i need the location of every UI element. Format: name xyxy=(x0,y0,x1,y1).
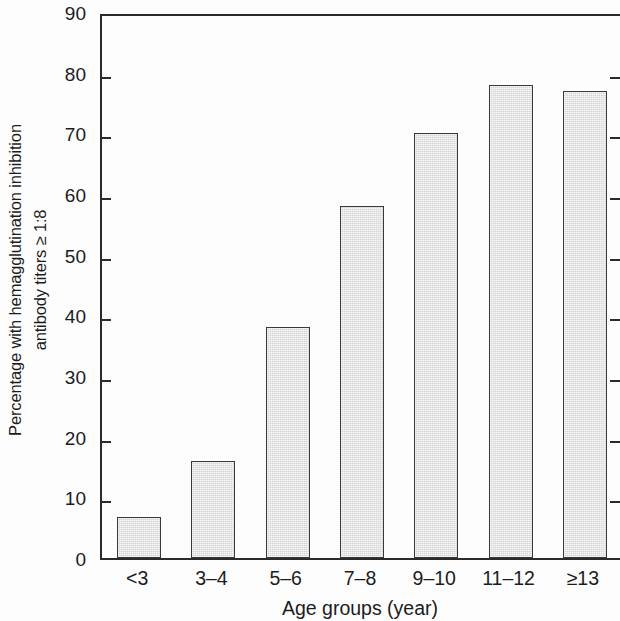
x-axis-tick-labels: <33–45–67–89–1011–12≥13 xyxy=(100,566,620,596)
x-axis-tick-label: 3–4 xyxy=(174,566,248,590)
y-axis-title-line-1: Percentage with hemagglutination inhibit… xyxy=(3,124,28,436)
y-axis-tick-label: 50 xyxy=(48,247,86,266)
plot-area xyxy=(100,14,620,560)
bar xyxy=(266,327,310,558)
y-axis-tick-label: 70 xyxy=(48,125,86,144)
x-axis-tick-label: 11–12 xyxy=(471,566,545,590)
y-axis-tick-labels: 0102030405060708090 xyxy=(46,0,86,621)
x-axis-tick-label: 7–8 xyxy=(323,566,397,590)
bar xyxy=(191,461,235,558)
y-axis-tick-label: 80 xyxy=(48,65,86,84)
y-axis-tick-label: 60 xyxy=(48,186,86,205)
y-axis-tick-label: 0 xyxy=(48,550,86,569)
y-axis-tick-label: 40 xyxy=(48,307,86,326)
y-axis-tick-label: 20 xyxy=(48,429,86,448)
bar xyxy=(340,206,384,558)
y-axis-tick-label: 10 xyxy=(48,489,86,508)
bar xyxy=(117,517,161,558)
x-axis-tick-label: 9–10 xyxy=(397,566,471,590)
bar xyxy=(414,133,458,558)
x-axis-tick-label: <3 xyxy=(100,566,174,590)
bar xyxy=(489,85,533,558)
x-axis-tick-label: 5–6 xyxy=(249,566,323,590)
y-axis-tick-label: 30 xyxy=(48,368,86,387)
bar xyxy=(563,91,607,558)
y-axis-tick-label: 90 xyxy=(48,4,86,23)
x-axis-tick-label: ≥13 xyxy=(546,566,620,590)
bar-series xyxy=(102,16,620,558)
bar-chart-figure: Percentage with hemagglutination inhibit… xyxy=(0,0,620,621)
x-axis-title: Age groups (year) xyxy=(100,596,620,620)
